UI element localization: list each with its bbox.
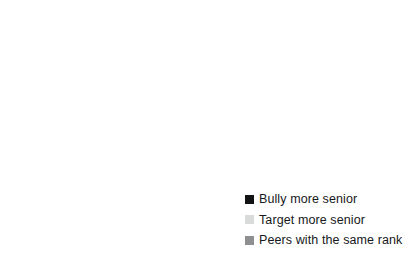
legend-swatch-icon-black bbox=[245, 195, 254, 204]
legend-item-label: Peers with the same rank bbox=[259, 234, 402, 247]
legend-item-label: Target more senior bbox=[259, 214, 365, 227]
chart-legend: Bully more senior Target more senior Pee… bbox=[245, 193, 416, 247]
pie-chart-figure: Bully more senior Target more senior Pee… bbox=[0, 0, 416, 269]
pie-chart-svg bbox=[0, 0, 280, 269]
legend-item-label: Bully more senior bbox=[259, 193, 357, 206]
legend-item-peers-with-the-same-rank[interactable]: Peers with the same rank bbox=[245, 234, 416, 247]
legend-swatch-icon-light-gray bbox=[245, 215, 254, 224]
legend-swatch-icon-gray bbox=[245, 236, 254, 245]
legend-item-bully-more-senior[interactable]: Bully more senior bbox=[245, 193, 416, 206]
legend-item-target-more-senior[interactable]: Target more senior bbox=[245, 214, 416, 227]
pie-chart-plot-area bbox=[0, 0, 280, 269]
